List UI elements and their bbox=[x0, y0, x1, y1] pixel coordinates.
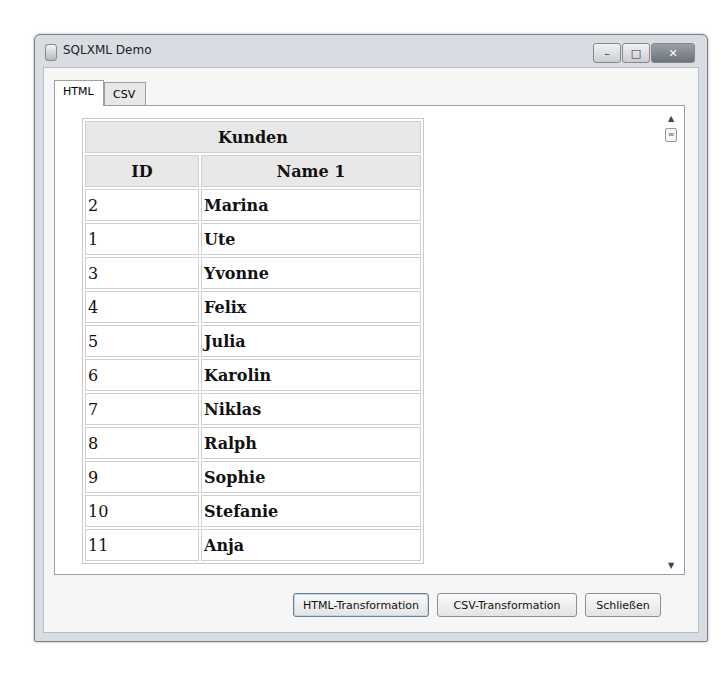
cell-name: Julia bbox=[201, 325, 421, 357]
cell-id: 10 bbox=[85, 495, 199, 527]
table-row: 9Sophie bbox=[85, 461, 421, 493]
sqlxml-demo-window: SQLXML Demo – □ ✕ HTML CSV Kunden ID Nam… bbox=[34, 34, 708, 642]
cell-name: Niklas bbox=[201, 393, 421, 425]
tab-html[interactable]: HTML bbox=[54, 80, 104, 106]
column-header-id: ID bbox=[85, 155, 199, 187]
window-title: SQLXML Demo bbox=[63, 43, 151, 57]
close-window-button[interactable]: ✕ bbox=[651, 43, 695, 63]
title-bar[interactable]: SQLXML Demo – □ ✕ bbox=[35, 35, 707, 67]
html-transformation-button[interactable]: HTML-Transformation bbox=[293, 593, 429, 617]
tab-csv[interactable]: CSV bbox=[104, 82, 146, 105]
cell-id: 2 bbox=[85, 189, 199, 221]
cell-name: Ralph bbox=[201, 427, 421, 459]
scroll-down-arrow-icon[interactable]: ▼ bbox=[668, 561, 674, 570]
cell-id: 1 bbox=[85, 223, 199, 255]
table-row: 10Stefanie bbox=[85, 495, 421, 527]
cell-id: 7 bbox=[85, 393, 199, 425]
vertical-scrollbar[interactable]: ▲ ≡ ▼ bbox=[660, 106, 684, 574]
cell-name: Yvonne bbox=[201, 257, 421, 289]
cell-id: 8 bbox=[85, 427, 199, 459]
table-row: 4Felix bbox=[85, 291, 421, 323]
scroll-thumb[interactable]: ≡ bbox=[665, 128, 677, 142]
cell-name: Karolin bbox=[201, 359, 421, 391]
cell-id: 3 bbox=[85, 257, 199, 289]
kunden-table: Kunden ID Name 1 2Marina 1Ute 3Yvonne 4F… bbox=[82, 118, 424, 564]
close-button[interactable]: Schließen bbox=[585, 593, 661, 617]
table-row: 3Yvonne bbox=[85, 257, 421, 289]
cell-id: 6 bbox=[85, 359, 199, 391]
maximize-icon: □ bbox=[623, 44, 649, 62]
cell-name: Ute bbox=[201, 223, 421, 255]
cell-name: Sophie bbox=[201, 461, 421, 493]
cell-id: 11 bbox=[85, 529, 199, 561]
html-viewport: Kunden ID Name 1 2Marina 1Ute 3Yvonne 4F… bbox=[55, 106, 660, 574]
minimize-icon: – bbox=[594, 44, 620, 62]
table-row: 2Marina bbox=[85, 189, 421, 221]
scroll-up-arrow-icon[interactable]: ▲ bbox=[668, 114, 674, 123]
close-icon: ✕ bbox=[652, 44, 694, 62]
dialog-client-area: HTML CSV Kunden ID Name 1 2Marina 1Ute 3… bbox=[43, 67, 699, 633]
cell-name: Felix bbox=[201, 291, 421, 323]
minimize-button[interactable]: – bbox=[593, 43, 621, 63]
maximize-button[interactable]: □ bbox=[622, 43, 650, 63]
cell-name: Anja bbox=[201, 529, 421, 561]
table-row: 1Ute bbox=[85, 223, 421, 255]
cell-id: 9 bbox=[85, 461, 199, 493]
cell-name: Stefanie bbox=[201, 495, 421, 527]
table-caption: Kunden bbox=[85, 121, 421, 153]
csv-transformation-button[interactable]: CSV-Transformation bbox=[437, 593, 577, 617]
database-icon bbox=[45, 44, 57, 61]
column-header-name: Name 1 bbox=[201, 155, 421, 187]
table-row: 11Anja bbox=[85, 529, 421, 561]
table-row: 5Julia bbox=[85, 325, 421, 357]
cell-name: Marina bbox=[201, 189, 421, 221]
table-row: 8Ralph bbox=[85, 427, 421, 459]
table-row: 7Niklas bbox=[85, 393, 421, 425]
html-preview-panel: Kunden ID Name 1 2Marina 1Ute 3Yvonne 4F… bbox=[54, 105, 685, 575]
cell-id: 4 bbox=[85, 291, 199, 323]
table-row: 6Karolin bbox=[85, 359, 421, 391]
cell-id: 5 bbox=[85, 325, 199, 357]
